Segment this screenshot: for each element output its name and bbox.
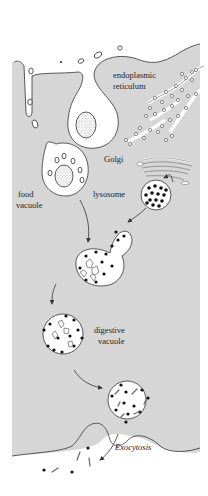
label-er-line1: endoplasmic (113, 70, 156, 80)
label-er-line2: reticulum (113, 81, 146, 91)
label-digestive-vacuole-line2: vacuole (98, 336, 125, 346)
digestive-vacuole (43, 314, 83, 354)
label-food-vacuole-line1: food (18, 189, 34, 199)
particle (60, 61, 62, 63)
label-lysosome: lysosome (93, 189, 125, 199)
particle (29, 68, 33, 74)
label-golgi: Golgi (104, 154, 124, 164)
label-digestive-vacuole-line1: digestive (94, 325, 125, 335)
lysosome-pathway-diagram: endoplasmic reticulum Golgi lysosome foo… (0, 0, 208, 496)
particle (77, 58, 84, 64)
particle (93, 51, 102, 59)
label-food-vacuole-line2: vacuole (16, 200, 43, 210)
particle (28, 99, 32, 105)
engulfed-particle (76, 112, 96, 138)
food-particle (55, 165, 73, 187)
label-exocytosis: Exocytosis (114, 442, 152, 452)
particle (118, 46, 122, 50)
